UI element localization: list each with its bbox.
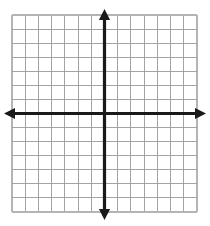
coordinate-grid-svg (0, 0, 210, 226)
y-axis-down-arrow-icon (99, 209, 110, 220)
x-axis-right-arrow-icon (195, 108, 206, 119)
coordinate-plane (0, 0, 210, 226)
x-axis-left-arrow-icon (4, 108, 15, 119)
